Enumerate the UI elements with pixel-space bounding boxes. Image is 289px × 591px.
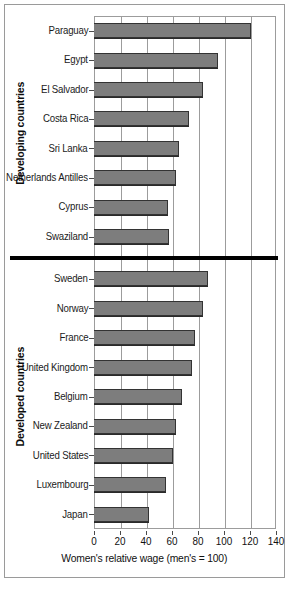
group-divider (10, 256, 278, 260)
y-axis-tick-label: Norway (56, 294, 88, 323)
bar-row (94, 134, 276, 163)
x-axis-tick-label: 80 (192, 535, 203, 547)
group-label-developed-text: Developed countries (14, 264, 26, 529)
x-axis-tick-label: 0 (91, 535, 97, 547)
chart-figure: ParaguayEgyptEl SalvadorCosta RicaSri La… (0, 0, 289, 591)
bar-row (94, 75, 276, 104)
x-axis-tick-label: 20 (114, 535, 125, 547)
bar-row (94, 382, 276, 411)
y-axis-tick-label: Costa Rica (43, 104, 88, 133)
y-axis-tick-mark (89, 178, 94, 179)
y-axis-tick-label: Swaziland (46, 222, 88, 251)
y-axis-tick-mark (89, 60, 94, 61)
y-axis-tick-mark (89, 397, 94, 398)
y-axis-tick-mark (89, 308, 94, 309)
bar-row (94, 441, 276, 470)
bar-row (94, 470, 276, 499)
y-axis-tick-mark (89, 455, 94, 456)
bar-row (94, 411, 276, 440)
bar (94, 419, 176, 434)
bar (94, 389, 182, 404)
y-axis-tick-label: Sri Lanka (49, 134, 88, 163)
y-axis-tick-label: El Salvador (41, 75, 88, 104)
bar (94, 170, 176, 185)
bar-row (94, 500, 276, 529)
y-axis-tick-label: France (59, 323, 88, 352)
y-axis-tick-mark (89, 338, 94, 339)
x-axis-ticks: 020406080100120140 (94, 531, 276, 547)
y-axis-tick-label: Paraguay (48, 16, 88, 45)
y-axis-tick-mark (89, 426, 94, 427)
bar (94, 141, 179, 156)
x-axis-tick-label: 40 (140, 535, 151, 547)
group-label-developed: Developed countries (0, 264, 18, 529)
bar (94, 23, 251, 38)
bar-row (94, 353, 276, 382)
y-axis-tick-mark (89, 119, 94, 120)
bar (94, 82, 203, 97)
y-axis-tick-label: Belgium (54, 382, 88, 411)
y-axis-tick-label: United Kingdom (22, 353, 88, 382)
bar-row (94, 163, 276, 192)
bar (94, 111, 189, 126)
x-axis-tick-label: 100 (216, 535, 233, 547)
y-axis-tick-mark (89, 207, 94, 208)
bar (94, 360, 192, 375)
bar (94, 330, 195, 345)
y-axis-tick-mark (89, 237, 94, 238)
group-label-developing: Developing countries (0, 16, 18, 251)
y-axis-tick-mark (89, 514, 94, 515)
bar (94, 271, 208, 286)
y-axis-tick-label: Sweden (54, 264, 88, 293)
y-axis-tick-mark (89, 148, 94, 149)
bar (94, 229, 169, 244)
y-axis-tick-mark (89, 90, 94, 91)
bar (94, 200, 168, 215)
bar-row (94, 104, 276, 133)
y-axis-tick-mark (89, 485, 94, 486)
y-axis-tick-label: Japan (63, 500, 88, 529)
x-axis-title: Women's relative wage (men's = 100) (0, 552, 289, 564)
y-axis-tick-mark (89, 367, 94, 368)
bar-row (94, 192, 276, 221)
y-axis-tick-label: New Zealand (33, 411, 88, 440)
y-axis-tick-label: Cyprus (59, 192, 88, 221)
bar-row (94, 222, 276, 251)
bar (94, 477, 166, 492)
bar-row (94, 264, 276, 293)
bar (94, 448, 173, 463)
bar-row (94, 45, 276, 74)
x-axis-title-text: Women's relative wage (men's = 100) (62, 552, 228, 564)
x-axis-tick-label: 60 (166, 535, 177, 547)
bars-layer (94, 16, 276, 529)
y-axis-tick-mark (89, 279, 94, 280)
y-axis-tick-mark (89, 31, 94, 32)
y-axis-tick-label: Egypt (64, 45, 88, 74)
bar (94, 507, 149, 522)
bar (94, 53, 218, 68)
bar (94, 301, 203, 316)
bar-row (94, 16, 276, 45)
y-axis-tick-label: Luxembourg (36, 470, 88, 499)
y-axis-tick-label: United States (32, 441, 88, 470)
bar-row (94, 323, 276, 352)
bar-row (94, 294, 276, 323)
x-axis-tick-label: 140 (268, 535, 285, 547)
group-label-developing-text: Developing countries (14, 16, 26, 251)
x-axis-tick-label: 120 (242, 535, 259, 547)
